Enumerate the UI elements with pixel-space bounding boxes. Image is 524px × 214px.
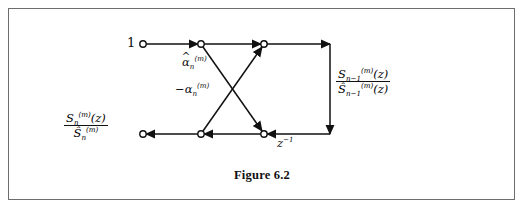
delay-exponent: −1	[283, 135, 294, 144]
right-signal-ratio: Sn−1(m)(z) Ŝn−1(m)(z)	[336, 68, 390, 95]
right-den-superscript: (m)	[361, 81, 373, 90]
left-den-subscript: n	[81, 133, 86, 142]
left-num-symbol: S	[66, 111, 74, 125]
gain-lower-subscript: n	[192, 89, 197, 98]
right-num-superscript: (m)	[361, 66, 373, 75]
gain-upper-subscript: n	[190, 62, 195, 71]
right-ratio-denominator: Ŝn−1(m)(z)	[336, 82, 390, 95]
figure-caption: Figure 6.2	[0, 168, 524, 183]
node-bottom-left	[140, 131, 146, 137]
left-den-superscript: (m)	[86, 125, 98, 134]
figure-page: 1 ^αn(m) −αn(m) z−1 Sn(m)(z) Ŝn(m) Sn−1…	[0, 0, 524, 214]
left-num-argument: (z)	[91, 111, 106, 125]
right-den-symbol: Ŝ	[338, 82, 346, 96]
input-label-one: 1	[127, 36, 135, 49]
right-num-argument: (z)	[373, 67, 388, 81]
node-top-right	[261, 41, 267, 47]
left-num-superscript: (m)	[78, 110, 90, 119]
node-top-mid	[198, 41, 204, 47]
gain-label-upper: ^αn(m)	[182, 57, 207, 69]
hat-accent-icon: ^	[182, 52, 190, 62]
right-den-argument: (z)	[373, 82, 388, 96]
gain-upper-superscript: (m)	[194, 54, 206, 63]
node-bottom-right	[261, 131, 267, 137]
gain-label-lower: −αn(m)	[175, 84, 209, 96]
left-ratio-numerator: Sn(m)(z)	[64, 112, 108, 126]
delay-label: z−1	[277, 138, 294, 150]
node-bottom-mid	[198, 131, 204, 137]
right-num-subscript: n−1	[346, 74, 361, 83]
node-top-left	[140, 41, 146, 47]
left-ratio-denominator: Ŝn(m)	[64, 126, 108, 139]
right-ratio-numerator: Sn−1(m)(z)	[336, 68, 390, 82]
right-num-symbol: S	[338, 67, 346, 81]
minus-sign: −	[175, 82, 185, 96]
gain-lower-superscript: (m)	[197, 81, 209, 90]
left-signal-ratio: Sn(m)(z) Ŝn(m)	[64, 112, 108, 139]
right-den-subscript: n−1	[346, 89, 361, 98]
